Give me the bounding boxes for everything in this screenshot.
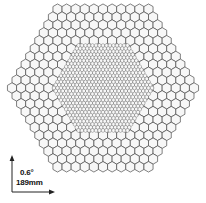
pixel-cell [135,162,144,173]
pixel-cell [77,128,81,132]
pixel-cell [126,128,130,132]
pixel-cell [80,162,89,173]
pixel-cell [117,162,126,173]
scale-arrow-up-icon [10,155,15,161]
pixel-cell [62,162,71,173]
pixel-cell [126,162,135,173]
pixel-cell [144,162,153,173]
detector-array-figure: 0.6° 189mm [0,0,206,203]
pixel-cell [105,128,109,132]
pixel-cell [71,162,80,173]
pixel-cell [98,162,107,173]
pixel-cell [101,128,105,132]
pixel-cell [84,128,88,132]
pixel-cell [87,128,91,132]
pixel-cell [115,128,119,132]
pixel-cell [89,162,98,173]
pixel-cell [122,128,126,132]
pixel-cell [119,128,123,132]
pixel-cell [98,128,102,132]
pixel-cell [112,128,116,132]
pixel-cell [94,128,98,132]
pixel-cell [80,128,84,132]
pixel-cell [108,128,112,132]
pixel-cell [108,162,117,173]
pixel-cell [91,128,95,132]
pixel-cell [53,162,62,173]
angular-scale-label: 0.6° [20,169,34,177]
linear-scale-label: 189mm [16,179,43,187]
scale-arrow-right-icon [49,190,55,195]
